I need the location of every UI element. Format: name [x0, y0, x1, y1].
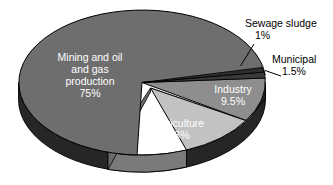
slice-value-municipal: 1.5%: [282, 66, 333, 78]
slice-value-sewage-sludge: 1%: [255, 30, 333, 42]
pie-chart: Mining and oil and gas production 75% Ag…: [0, 0, 333, 185]
slice-label-mining-and-oil-and-gas-production: Mining and oil and gas production 75%: [36, 52, 144, 100]
slice-label-industry: Industry 9.5%: [198, 84, 268, 108]
slice-value-industry: 9.5%: [198, 96, 268, 108]
slice-value-mining-and-oil-and-gas-production: 75%: [36, 88, 144, 100]
slice-label-municipal: Municipal 1.5%: [272, 54, 333, 78]
slice-label-agriculture: Agriculture 13%: [140, 118, 218, 142]
slice-value-agriculture: 13%: [140, 130, 218, 142]
slice-label-sewage-sludge: Sewage sludge 1%: [245, 18, 333, 42]
